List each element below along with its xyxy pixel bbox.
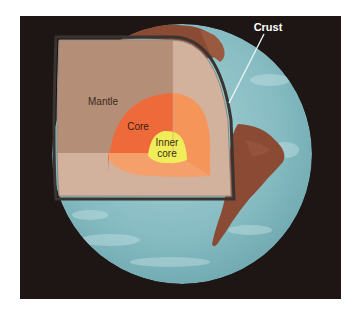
crust-label: Crust [254,21,283,33]
core-label: Core [127,121,149,132]
inner-core-label-line2: core [157,148,177,159]
inner-core-label-line1: Inner [156,137,179,148]
earth-structure-diagram: Crust Mantle Core Inner core [0,0,357,312]
mantle-label: Mantle [88,96,118,107]
cutaway-interior [55,38,235,198]
